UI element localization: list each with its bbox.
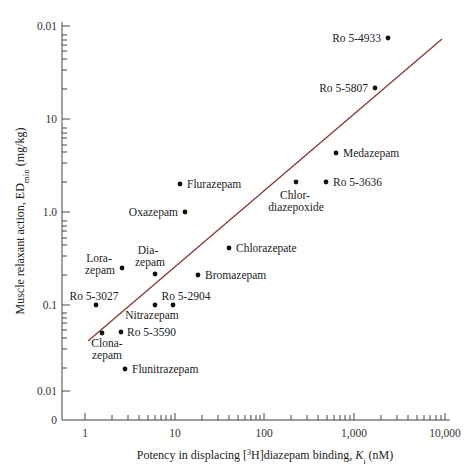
point-nitrazepam (153, 303, 158, 308)
scatter-chart: 0.01 10 1.0 0.1 0.01 0 1 10 100 1,000 10… (0, 0, 474, 466)
label-ro-5-4933: Ro 5-4933 (332, 32, 381, 44)
label-lorazepam-2: zepam (85, 264, 115, 277)
x-axis-title: Potency in displacing [3H]diazepam bindi… (137, 448, 394, 466)
y-tick-label: 0 (51, 414, 57, 426)
label-diazepam-1: Dia- (138, 244, 159, 256)
point-medazepam (334, 151, 339, 156)
x-tick-label: 1,000 (341, 427, 367, 440)
label-ro-5-3027: Ro 5-3027 (70, 290, 119, 302)
point-flunitrazepam (123, 367, 128, 372)
y-axis-title: Muscle relaxant action, EDmin (mg/kg) (13, 128, 31, 315)
x-axis (62, 413, 450, 420)
point-flurazepam (178, 182, 183, 187)
label-chlordiazepoxide-1: Chlor- (280, 189, 310, 201)
x-tick-label: 1 (82, 427, 88, 439)
point-ro-5-3636 (324, 180, 329, 185)
y-tick-label: 0.1 (43, 299, 58, 311)
label-ro-5-5807: Ro 5-5807 (319, 82, 368, 94)
label-lorazepam-1: Lora- (86, 252, 112, 264)
label-bromazepam: Bromazepam (205, 269, 266, 282)
label-clonazepam-1: Clona- (91, 337, 122, 349)
regression-line (88, 39, 442, 341)
label-chlordiazepoxide-2: diazepoxide (268, 201, 324, 214)
y-tick-label: 0.01 (37, 20, 57, 32)
point-ro-5-3027 (94, 303, 99, 308)
x-tick-label: 10 (169, 427, 181, 439)
y-tick-labels: 0.01 10 1.0 0.1 0.01 0 (37, 20, 57, 426)
label-ro-5-2904: Ro 5-2904 (162, 290, 211, 302)
label-flunitrazepam: Flunitrazepam (132, 363, 198, 376)
label-oxazepam: Oxazepam (129, 206, 178, 219)
y-axis (62, 22, 70, 420)
y-tick-label: 0.01 (37, 385, 57, 397)
point-labels: Ro 5-4933 Ro 5-5807 Medazepam Ro 5-3636 … (70, 32, 400, 376)
point-ro-5-2904 (171, 303, 176, 308)
point-oxazepam (183, 210, 188, 215)
label-medazepam: Medazepam (343, 147, 399, 160)
label-flurazepam: Flurazepam (187, 178, 241, 191)
point-ro-5-5807 (373, 86, 378, 91)
label-nitrazepam: Nitrazepam (125, 309, 179, 322)
point-diazepam (153, 272, 158, 277)
point-chlordiazepoxide (294, 180, 299, 185)
point-chlorazepate (227, 246, 232, 251)
x-tick-labels: 1 10 100 1,000 10,000 (82, 427, 461, 440)
label-chlorazepate: Chlorazepate (236, 242, 297, 255)
point-lorazepam (120, 266, 125, 271)
point-clonazepam (100, 331, 105, 336)
label-ro-5-3590: Ro 5-3590 (127, 326, 176, 338)
point-bromazepam (196, 273, 201, 278)
x-tick-label: 10,000 (429, 427, 461, 440)
label-diazepam-2: zepam (135, 256, 165, 269)
x-tick-label: 100 (255, 427, 273, 439)
y-tick-label: 10 (46, 113, 58, 125)
point-ro-5-3590 (119, 330, 124, 335)
label-ro-5-3636: Ro 5-3636 (333, 176, 382, 188)
point-ro-5-4933 (386, 36, 391, 41)
label-clonazepam-2: zepam (92, 349, 122, 362)
y-tick-label: 1.0 (43, 206, 58, 218)
